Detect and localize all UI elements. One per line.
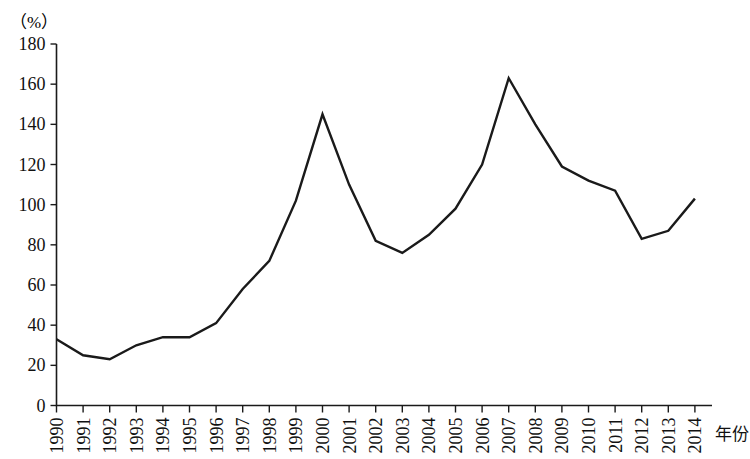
- x-axis-tick-label: 2014: [685, 418, 705, 454]
- y-axis-tick-label: 80: [28, 235, 46, 255]
- y-axis-tick-label: 160: [19, 74, 46, 94]
- x-axis-tick-label: 2006: [473, 418, 493, 454]
- x-axis-tick-label: 2010: [579, 418, 599, 454]
- x-axis-title: 年份: [715, 425, 749, 444]
- x-axis-tick-label: 2003: [393, 418, 413, 454]
- y-axis-tick-label: 0: [37, 396, 46, 416]
- x-axis-tick-label: 1998: [260, 418, 280, 454]
- x-axis-tick-label: 2009: [552, 418, 572, 454]
- x-axis-tick-group: 1990199119921993199419951996199719981999…: [47, 406, 705, 454]
- chart-axes: [57, 44, 713, 406]
- chart-plot-area: 020406080100120140160180 199019911992199…: [0, 0, 750, 459]
- y-axis-tick-label: 100: [19, 195, 46, 215]
- x-axis-tick-label: 2001: [340, 418, 360, 454]
- y-axis-tick-label: 180: [19, 34, 46, 54]
- x-axis-tick-label: 2000: [313, 418, 333, 454]
- y-axis-tick-label: 60: [28, 275, 46, 295]
- x-axis-tick-label: 2011: [606, 418, 626, 453]
- x-axis-tick-label: 2013: [659, 418, 679, 454]
- line-chart: （%） 020406080100120140160180 19901991199…: [0, 0, 750, 459]
- x-axis-tick-label: 2002: [366, 418, 386, 454]
- x-axis-tick-label: 2008: [526, 418, 546, 454]
- x-axis-tick-label: 2004: [419, 418, 439, 454]
- x-axis-tick-label: 1995: [180, 418, 200, 454]
- x-axis-tick-label: 1994: [153, 418, 173, 454]
- x-axis-tick-label: 1992: [100, 418, 120, 454]
- y-axis-tick-label: 140: [19, 114, 46, 134]
- x-axis-tick-label: 1997: [233, 418, 253, 454]
- x-axis-tick-label: 1993: [127, 418, 147, 454]
- x-axis-tick-label: 2012: [632, 418, 652, 454]
- x-axis-tick-label: 2005: [446, 418, 466, 454]
- x-axis-tick-label: 1990: [47, 418, 67, 454]
- x-axis-tick-label: 2007: [499, 418, 519, 454]
- y-axis-tick-label: 20: [28, 355, 46, 375]
- x-axis-tick-label: 1991: [74, 418, 94, 454]
- y-axis-tick-group: 020406080100120140160180: [19, 34, 57, 416]
- data-series-line: [57, 78, 695, 359]
- x-axis-tick-label: 1999: [286, 418, 306, 454]
- x-axis-tick-label: 1996: [207, 418, 227, 454]
- y-axis-tick-label: 120: [19, 155, 46, 175]
- y-axis-tick-label: 40: [28, 315, 46, 335]
